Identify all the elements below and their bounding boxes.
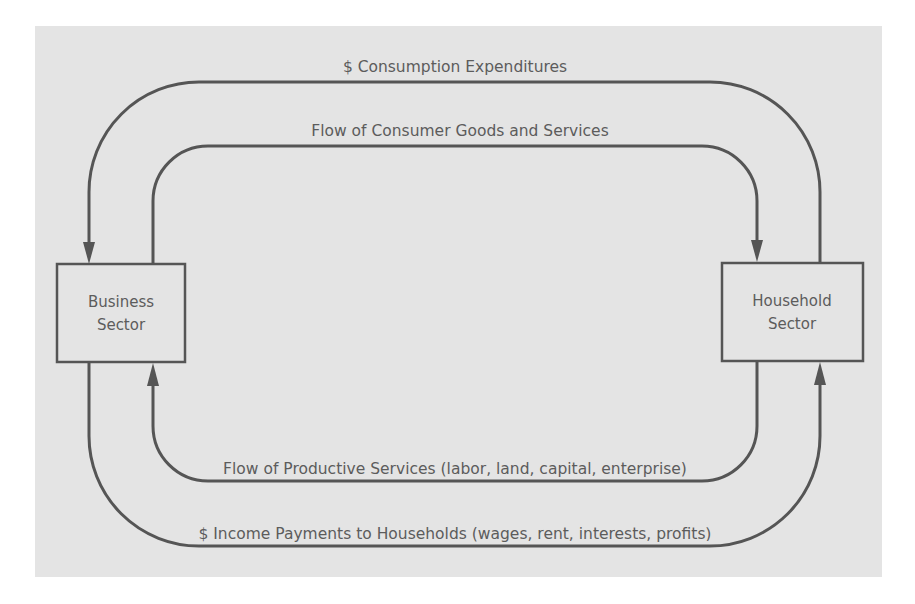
household-sector-box bbox=[722, 263, 863, 361]
consumer-goods-label: Flow of Consumer Goods and Services bbox=[311, 122, 608, 140]
consumption-expenditures-label: $ Consumption Expenditures bbox=[343, 58, 567, 76]
income-payments-label-path: $ Income Payments to Households (wages, … bbox=[198, 525, 711, 543]
business-sector-box bbox=[57, 264, 185, 362]
household-sector-label-line1: Household bbox=[752, 292, 831, 310]
productive-services-label-path: Flow of Productive Services (labor, land… bbox=[223, 460, 687, 478]
income-payments-label: $ Income Payments to Households (wages, … bbox=[198, 525, 711, 543]
household-sector-node: Household Sector bbox=[722, 263, 863, 361]
productive-services-label: Flow of Productive Services (labor, land… bbox=[223, 460, 687, 478]
business-sector-label-line1: Business bbox=[88, 293, 154, 311]
business-sector-node: Business Sector bbox=[57, 264, 185, 362]
business-sector-label-line2: Sector bbox=[97, 316, 146, 334]
circular-flow-diagram: Business Sector Household Sector $ Consu… bbox=[0, 0, 915, 604]
household-sector-label-line2: Sector bbox=[768, 315, 817, 333]
